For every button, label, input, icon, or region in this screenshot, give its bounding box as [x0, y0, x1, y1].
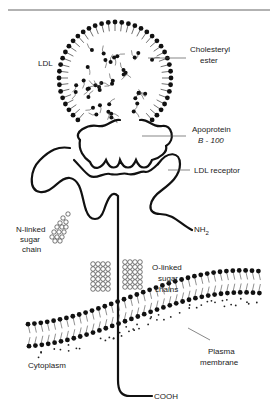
label-plasma-1: Plasma: [208, 347, 235, 356]
label-n-linked-1: N-linked: [16, 225, 45, 234]
ldl-receptor: [32, 120, 192, 396]
label-n-linked-2: sugar: [20, 235, 40, 244]
label-cooh: COOH: [154, 392, 178, 401]
label-cholesteryl-ester-1: Cholesteryl: [190, 45, 230, 54]
plasma-membrane: [26, 268, 262, 358]
label-cytoplasm: Cytoplasm: [28, 361, 66, 370]
ldl-receptor-diagram: LDL Cholesteryl ester Apoprotein B - 100…: [0, 0, 277, 403]
label-nh2: NH2: [194, 225, 210, 236]
label-cholesteryl-ester-2: ester: [200, 56, 218, 65]
label-plasma-2: membrane: [200, 358, 239, 367]
label-ldl-receptor: LDL receptor: [194, 166, 240, 175]
label-o-linked-3: chains: [155, 285, 178, 294]
label-o-linked-1: O-linked: [152, 263, 182, 272]
label-n-linked-3: chain: [22, 245, 41, 254]
o-linked-sugar-chains: [91, 260, 143, 292]
n-linked-sugar-chain: [50, 212, 70, 243]
label-o-linked-2: sugar: [158, 274, 178, 283]
label-ldl: LDL: [38, 59, 53, 68]
label-apoprotein-1: Apoprotein: [192, 125, 231, 134]
ldl-particle: [57, 20, 174, 123]
label-apoprotein-2: B - 100: [198, 136, 224, 145]
